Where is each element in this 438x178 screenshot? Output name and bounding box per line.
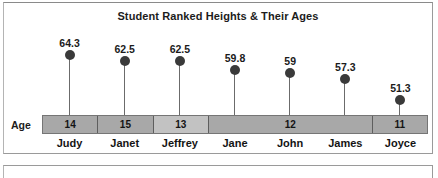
data-point-dot	[175, 56, 185, 66]
data-value-label: 51.3	[378, 82, 422, 94]
marker-stem	[344, 79, 345, 115]
chart-panel: Student Ranked Heights & Their Ages 64.3…	[3, 2, 433, 154]
category-label: Joyce	[367, 137, 433, 149]
data-value-label: 62.5	[158, 43, 202, 55]
data-point-dot	[285, 68, 295, 78]
marker-stem	[289, 73, 290, 115]
data-point-dot	[230, 65, 240, 75]
data-value-label: 59.8	[213, 52, 257, 64]
category-labels-row: JudyJanetJeffreyJaneJohnJamesJoyce	[42, 137, 428, 153]
marker-stem	[124, 61, 125, 115]
data-value-label: 57.3	[323, 61, 367, 73]
data-value-label: 59	[268, 55, 312, 67]
data-value-label: 64.3	[48, 37, 92, 49]
data-value-label: 62.5	[103, 43, 147, 55]
age-band: 1415131211	[42, 115, 428, 134]
data-point-dot	[395, 95, 405, 105]
age-row-header: Age	[11, 119, 31, 131]
data-point-dot	[340, 74, 350, 84]
secondary-panel	[3, 165, 433, 178]
plot-area: 64.362.562.559.85957.351.3	[42, 27, 428, 115]
marker-stem	[69, 55, 70, 115]
page-title: Student Ranked Heights & Their Ages	[4, 10, 432, 22]
marker-stem	[234, 70, 235, 115]
data-point-dot	[120, 56, 130, 66]
age-band-segment: 13	[154, 116, 209, 133]
age-band-segment: 15	[98, 116, 153, 133]
screenshot-root: Student Ranked Heights & Their Ages 64.3…	[0, 0, 438, 178]
age-band-segment: 11	[373, 116, 427, 133]
age-band-segment: 14	[43, 116, 98, 133]
data-point-dot	[65, 50, 75, 60]
age-band-segment: 12	[209, 116, 373, 133]
marker-stem	[179, 61, 180, 115]
